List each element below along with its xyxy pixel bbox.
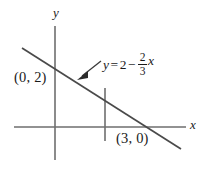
fraction-denominator: 3 (139, 65, 147, 78)
equation-minus-sign: − (126, 58, 137, 72)
equation-variable: x (148, 54, 154, 68)
equation-equals-sign: = (109, 58, 120, 72)
fraction-numerator: 2 (139, 52, 147, 65)
y-axis-label: y (53, 6, 59, 19)
equation-annotation: y=2− 2 3 x (103, 52, 154, 78)
x-axis-label: x (190, 118, 196, 131)
plotted-line (22, 48, 181, 149)
line-graph-figure: y x (0, 2) (3, 0) y=2− 2 3 x (0, 0, 205, 171)
graph-canvas (0, 0, 205, 171)
y-intercept-label: (0, 2) (14, 70, 47, 85)
x-intercept-label: (3, 0) (116, 131, 149, 146)
equation-fraction: 2 3 (138, 52, 147, 78)
equation-constant: 2 (120, 58, 127, 72)
